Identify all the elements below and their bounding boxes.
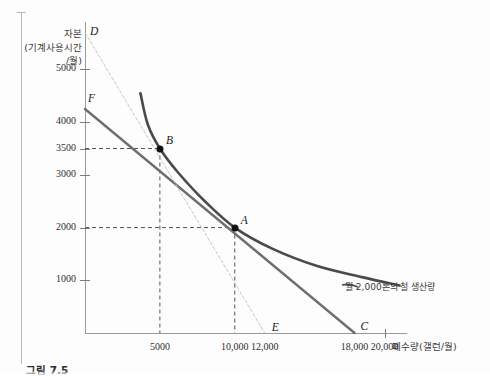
point-label-f: F: [88, 92, 95, 104]
point-label-d: D: [90, 25, 98, 37]
point-label-a: A: [241, 214, 248, 226]
point-label-b: B: [166, 134, 173, 146]
figure-root: 자본 (기계사용시간 /월) 폐수량(갤런/월) 500040003500300…: [0, 0, 490, 376]
point-label-c: C: [361, 320, 369, 332]
chart-curves-layer: [0, 0, 490, 376]
page-bottom-fade: [0, 370, 490, 376]
data-point-a: [231, 224, 238, 231]
guide-lines-group: [85, 149, 235, 333]
data-point-b: [156, 145, 163, 152]
point-label-e: E: [272, 321, 279, 333]
series-isocost-FC: [85, 109, 355, 333]
production-annotation: 월 2,000톤의 철 생산량: [345, 280, 435, 293]
